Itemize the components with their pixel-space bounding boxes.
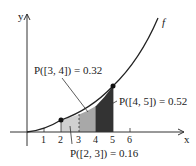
label-3-4: P([3, 4]) = 0.32	[34, 65, 102, 76]
x-axis-label: x	[184, 134, 190, 145]
tick-3: 3	[76, 135, 81, 145]
curve-label: f	[162, 17, 165, 28]
region-3-4	[79, 106, 96, 132]
tick-2: 2	[58, 135, 63, 145]
y-axis-label: y	[18, 11, 24, 22]
region-4-5	[96, 86, 113, 132]
tick-1: 1	[41, 135, 46, 145]
label-4-5: P([4, 5]) = 0.52	[119, 96, 187, 107]
tick-4: 4	[93, 135, 98, 145]
tick-6: 6	[127, 135, 132, 145]
label-2-3: P([2, 3]) = 0.16	[70, 148, 138, 159]
tick-5: 5	[110, 135, 115, 145]
chart-canvas	[0, 0, 196, 166]
